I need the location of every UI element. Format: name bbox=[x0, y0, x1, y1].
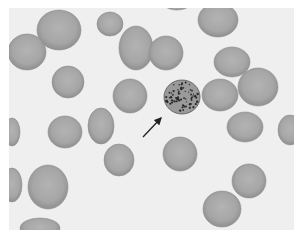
micrograph bbox=[9, 8, 294, 230]
red-blood-cell bbox=[28, 165, 68, 209]
red-blood-cell bbox=[119, 26, 153, 70]
red-blood-cell bbox=[232, 164, 266, 198]
red-blood-cell bbox=[48, 116, 82, 148]
red-blood-cell bbox=[9, 34, 46, 70]
red-blood-cell bbox=[104, 144, 134, 176]
red-blood-cell bbox=[163, 137, 197, 171]
red-blood-cell bbox=[238, 68, 278, 106]
red-blood-cell bbox=[227, 112, 263, 142]
blood-smear-photo bbox=[9, 8, 294, 230]
red-blood-cell bbox=[88, 108, 114, 144]
red-blood-cell bbox=[202, 79, 238, 111]
red-blood-cell bbox=[203, 191, 241, 227]
stippled-cell bbox=[164, 80, 200, 114]
red-blood-cell bbox=[97, 12, 123, 36]
red-blood-cell bbox=[113, 79, 147, 113]
red-blood-cell bbox=[52, 66, 84, 98]
red-blood-cell bbox=[149, 36, 183, 70]
